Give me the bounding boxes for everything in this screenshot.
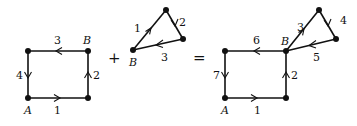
node (316, 7, 322, 13)
vertex-label-B: B (280, 35, 289, 48)
edge-label: 4 (16, 69, 23, 82)
edge-label: 6 (253, 34, 260, 47)
node-A (222, 95, 228, 101)
edge-label: 1 (54, 104, 61, 117)
combined-cycle: 1 2 3 4 5 6 7 A B (213, 7, 347, 117)
edge-label: 5 (313, 51, 320, 64)
node-B (85, 48, 91, 54)
edge-label: 7 (213, 69, 220, 82)
left-square-cycle: 1 2 3 4 A B (16, 34, 100, 117)
node-A (25, 95, 31, 101)
edge-label: 2 (291, 69, 298, 82)
edge-label: 2 (93, 69, 100, 82)
node (163, 7, 169, 13)
node-B (283, 48, 289, 54)
edge-label: 1 (254, 104, 261, 117)
plus-operator: + (108, 49, 121, 67)
vertex-label-B: B (128, 56, 137, 69)
triangle-cycle: 1 2 3 B (128, 7, 186, 69)
cycle-composition-diagram: 1 2 3 4 A B + 1 2 3 B = (0, 0, 357, 126)
node (222, 48, 228, 54)
edge-label: 3 (54, 34, 61, 47)
equals-operator: = (193, 49, 206, 67)
node (180, 36, 186, 42)
edge-label: 4 (340, 14, 347, 27)
edge-label: 3 (161, 51, 168, 64)
edge-label: 2 (179, 16, 186, 29)
node (283, 95, 289, 101)
edge-label: 1 (134, 22, 141, 35)
vertex-label-B: B (82, 34, 91, 47)
vertex-label-A: A (220, 104, 229, 117)
vertex-label-A: A (23, 104, 32, 117)
edge-label: 3 (297, 21, 304, 34)
node (25, 48, 31, 54)
node (85, 95, 91, 101)
node-B (130, 47, 136, 53)
node (333, 36, 339, 42)
